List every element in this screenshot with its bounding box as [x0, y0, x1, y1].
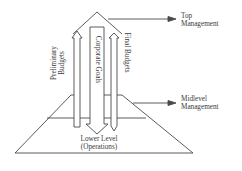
final-budgets-label-text: Final Budgets — [123, 32, 131, 72]
lower-level-label-line2: (Operations) — [74, 143, 124, 151]
midlevel-management-label-line1: Midlevel — [181, 95, 219, 103]
preliminary-budgets-label-line2: Budgets — [58, 38, 66, 88]
top-management-label-line2: Management — [181, 20, 219, 28]
midlevel-management-label: Midlevel Management — [181, 95, 219, 112]
top-management-label-line1: Top — [181, 12, 219, 20]
preliminary-budgets-label: Preliminary Budgets — [50, 38, 68, 88]
lower-level-label-line1: Lower Level — [74, 135, 124, 143]
final-budgets-arrow — [109, 33, 119, 131]
preliminary-budgets-label-line1: Preliminary — [50, 38, 58, 88]
final-budgets-label: Final Budgets — [122, 28, 131, 78]
preliminary-budgets-arrow — [72, 31, 82, 127]
corporate-goals-label: Corporate Goals — [93, 31, 102, 89]
budget-hierarchy-diagram: Top Management Midlevel Management Lower… — [0, 0, 242, 171]
midlevel-management-label-line2: Management — [181, 103, 219, 111]
lower-level-label: Lower Level (Operations) — [74, 135, 124, 152]
midlevel-pointer-head — [168, 101, 176, 106]
corporate-goals-label-text: Corporate Goals — [94, 36, 102, 83]
top-management-pointer-head — [168, 17, 176, 22]
top-management-label: Top Management — [181, 12, 219, 29]
